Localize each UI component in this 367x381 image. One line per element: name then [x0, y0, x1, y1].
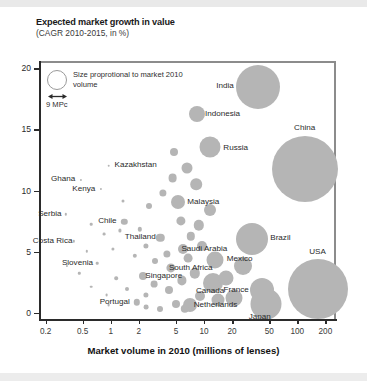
bubble-unlabeled [168, 173, 177, 182]
bubble-slovenia [96, 262, 99, 265]
legend-bubble-icon [47, 70, 67, 90]
bubble-unlabeled [182, 163, 193, 174]
y-axis-tick-label: 15 [0, 124, 31, 134]
x-axis-tick [111, 319, 112, 324]
bubble-malaysia [171, 195, 185, 209]
bubble-unlabeled [152, 258, 158, 264]
bubble-ghana [80, 179, 82, 181]
y-axis-tick [34, 252, 39, 253]
bubble-unlabeled [197, 241, 207, 251]
bubble-unlabeled [226, 289, 243, 306]
bubble-unlabeled [211, 294, 224, 307]
bubble-portugal [134, 299, 140, 305]
size-legend: Size proprotional to market 2010 volume … [44, 68, 184, 110]
x-axis: 0.20.5125102050100200 [39, 319, 337, 321]
x-axis-tick [176, 319, 177, 324]
x-axis-tick [297, 319, 298, 324]
bubble-usa [288, 259, 348, 319]
x-axis-tick-label: 0.2 [40, 327, 51, 336]
bubble-unlabeled [66, 265, 68, 267]
x-axis-tick-label: 10 [199, 327, 208, 336]
bubble-singapore [139, 272, 147, 280]
bubble-india [236, 65, 280, 109]
bubble-russia [199, 137, 220, 158]
bubble-mexico [206, 251, 223, 268]
x-axis-tick [232, 319, 233, 324]
x-axis-tick [269, 319, 270, 324]
bubble-kenya [100, 188, 102, 190]
x-axis-tick [139, 319, 140, 324]
bubble-indonesia [189, 106, 205, 122]
bubble-saudi-arabia [178, 244, 188, 254]
bubble-unlabeled [234, 257, 252, 275]
bubble-chart-figure: Expected market growth in value (CAGR 20… [0, 0, 367, 381]
legend-size-unit: 9 MPc [46, 100, 68, 109]
x-axis-tick-label: 2 [137, 327, 142, 336]
bubble-south-africa [166, 264, 175, 273]
y-axis-tick-label: 20 [0, 63, 31, 73]
bubble-unlabeled [190, 178, 202, 190]
x-axis-tick-label: 50 [265, 327, 274, 336]
bottom-band [0, 373, 367, 381]
bubble-unlabeled [121, 200, 124, 203]
y-axis-tick-label: 5 [0, 247, 31, 257]
y-axis-tick-label: 10 [0, 186, 31, 196]
bubble-unlabeled [170, 148, 178, 156]
bubble-unlabeled [190, 268, 200, 278]
bubble-unlabeled [157, 306, 163, 312]
bubble-unlabeled [105, 294, 108, 297]
bubble-thailand [156, 233, 164, 241]
bubble-unlabeled [118, 229, 121, 232]
y-axis-tick-label: 0 [0, 308, 31, 318]
x-axis-tick-label: 5 [174, 327, 179, 336]
bubble-unlabeled [172, 300, 180, 308]
bubble-unlabeled [144, 305, 149, 310]
bubble-unlabeled [103, 233, 106, 236]
bubble-unlabeled [144, 293, 149, 298]
bubble-unlabeled [165, 286, 173, 294]
chart-title: Expected market growth in value [36, 17, 175, 27]
bubble-unlabeled [132, 254, 136, 258]
x-axis-tick-label: 0.5 [77, 327, 88, 336]
y-axis-tick [34, 191, 39, 192]
bubble-unlabeled [85, 250, 87, 252]
bubble-unlabeled [90, 285, 93, 288]
bubble-unlabeled [218, 271, 233, 286]
bubble-unlabeled [138, 227, 142, 231]
bubble-unlabeled [90, 223, 93, 226]
x-axis-tick-label: 1 [108, 327, 113, 336]
bubble-unlabeled [115, 276, 119, 280]
x-axis-tick-label: 20 [228, 327, 237, 336]
bubble-unlabeled [107, 303, 110, 306]
bubble-unlabeled [177, 276, 186, 285]
y-axis-tick [34, 129, 39, 130]
bubble-unlabeled [184, 254, 193, 263]
bubble-unlabeled [125, 287, 129, 291]
top-band [0, 0, 367, 7]
x-axis-tick [83, 319, 84, 324]
bubble-chile [121, 219, 127, 225]
bubble-brazil [236, 223, 268, 255]
bubble-kazakhstan [107, 164, 110, 167]
legend-size-note: Size proprotional to market 2010 volume [73, 70, 183, 89]
bubble-china [272, 136, 338, 202]
bubble-unlabeled [187, 232, 195, 240]
x-axis-tick [325, 319, 326, 324]
y-axis-tick [34, 313, 39, 314]
x-axis-tick [204, 319, 205, 324]
chart-subtitle: (CAGR 2010-2015, in %) [36, 28, 129, 38]
y-axis [39, 61, 41, 320]
bubble-unlabeled [176, 216, 185, 225]
y-axis-tick [34, 68, 39, 69]
bubble-unlabeled [204, 204, 216, 216]
x-axis-tick [46, 319, 47, 324]
bubble-france [250, 278, 274, 302]
bubble-unlabeled [111, 247, 114, 250]
bubble-unlabeled [195, 291, 205, 301]
bubble-unlabeled [150, 281, 157, 288]
bubble-unlabeled [144, 244, 149, 249]
double-arrow-icon [48, 93, 67, 100]
bubble-serbia [65, 213, 67, 215]
bubble-costa-rica [72, 240, 74, 242]
x-axis-tick-label: 100 [290, 327, 304, 336]
